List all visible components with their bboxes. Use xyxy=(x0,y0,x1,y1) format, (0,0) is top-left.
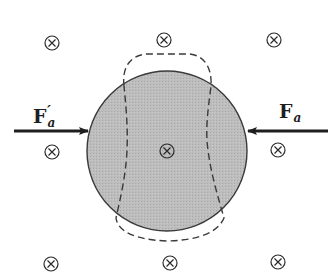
force-symbol: F xyxy=(33,105,47,127)
force-subscript: a xyxy=(294,111,302,125)
field-into-page-icon xyxy=(45,36,59,50)
force-subscript: a xyxy=(48,116,56,130)
field-into-page-icon xyxy=(271,143,285,157)
field-into-page-icon xyxy=(163,256,177,270)
force-symbol: F xyxy=(279,100,293,122)
force-label-right: Fa xyxy=(279,102,301,121)
field-into-page-icon xyxy=(44,257,58,271)
field-into-page-icon xyxy=(267,33,281,47)
force-label-left: F′a xyxy=(33,107,55,126)
field-into-page-icon xyxy=(271,255,285,269)
field-into-page-icon xyxy=(45,145,59,159)
deformed-sphere-diagram xyxy=(0,0,331,278)
field-into-page-icon xyxy=(157,33,171,47)
